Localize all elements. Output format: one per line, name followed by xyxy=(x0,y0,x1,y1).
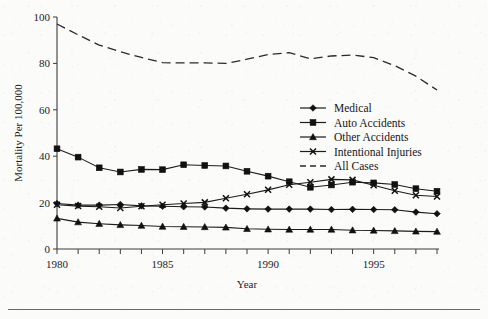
marker-auto-accidents-1984 xyxy=(139,167,145,173)
marker-auto-accidents-1981 xyxy=(75,154,81,160)
marker-auto-accidents-1997 xyxy=(413,186,419,192)
marker-medical-1995 xyxy=(370,206,377,213)
marker-auto-accidents-1998 xyxy=(434,188,440,194)
marker-auto-accidents-1983 xyxy=(117,169,123,175)
y-axis-title: Mortality Per 100,000 xyxy=(12,84,24,182)
y-tick-label-80: 80 xyxy=(39,57,51,69)
mortality-line-chart: 0204060801001980198519901995YearMortalit… xyxy=(0,0,488,319)
y-tick-label-0: 0 xyxy=(45,243,51,255)
marker-auto-accidents-1996 xyxy=(392,182,398,188)
x-axis-title: Year xyxy=(237,278,258,290)
marker-medical-1992 xyxy=(307,206,314,213)
marker-other-accidents-1980 xyxy=(54,215,61,221)
marker-medical-1988 xyxy=(223,205,230,212)
legend-label-auto-accidents: Auto Accidents xyxy=(334,117,406,129)
marker-auto-accidents-1987 xyxy=(202,163,208,169)
legend-label-intentional-injuries: Intentional Injuries xyxy=(334,146,422,159)
y-tick-label-40: 40 xyxy=(39,150,51,162)
series-line-all-cases xyxy=(57,24,437,90)
y-tick-label-20: 20 xyxy=(39,197,51,209)
page-bottom-rule xyxy=(8,309,480,310)
legend-label-all-cases: All Cases xyxy=(334,160,379,172)
y-tick-label-60: 60 xyxy=(39,104,51,116)
marker-auto-accidents-1993 xyxy=(329,182,335,188)
marker-medical-1983 xyxy=(117,201,124,208)
legend-label-other-accidents: Other Accidents xyxy=(334,131,409,143)
x-tick-label-1985: 1985 xyxy=(152,258,175,270)
figure-page: 0204060801001980198519901995YearMortalit… xyxy=(0,0,488,319)
x-tick-label-1980: 1980 xyxy=(46,258,69,270)
marker-medical-1994 xyxy=(349,206,356,213)
legend-label-medical: Medical xyxy=(334,102,372,114)
legend-marker-auto-accidents xyxy=(310,120,316,126)
marker-medical-1980 xyxy=(54,200,61,207)
x-tick-label-1990: 1990 xyxy=(257,258,280,270)
marker-auto-accidents-1988 xyxy=(223,163,229,169)
marker-auto-accidents-1985 xyxy=(160,167,166,173)
marker-medical-1991 xyxy=(286,206,293,213)
marker-medical-1989 xyxy=(244,206,251,213)
marker-medical-1998 xyxy=(434,210,441,217)
y-tick-label-100: 100 xyxy=(34,11,51,23)
legend-marker-medical xyxy=(310,105,317,112)
marker-auto-accidents-1980 xyxy=(54,146,60,152)
marker-auto-accidents-1989 xyxy=(244,168,250,174)
marker-medical-1990 xyxy=(265,206,272,213)
marker-auto-accidents-1986 xyxy=(181,162,187,168)
marker-medical-1996 xyxy=(391,206,398,213)
x-tick-label-1995: 1995 xyxy=(363,258,386,270)
marker-auto-accidents-1982 xyxy=(96,165,102,171)
marker-medical-1997 xyxy=(413,209,420,216)
marker-auto-accidents-1990 xyxy=(265,173,271,179)
marker-medical-1993 xyxy=(328,206,335,213)
